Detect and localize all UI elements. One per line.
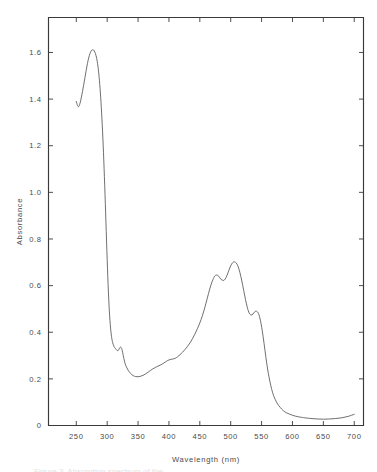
y-axis-tick-labels: 00.20.40.60.81.01.21.41.6 — [29, 48, 41, 430]
y-axis-ticks — [49, 52, 54, 425]
x-axis-ticks — [76, 421, 354, 426]
x-tick-label: 300 — [100, 432, 114, 441]
x-tick-label: 400 — [162, 432, 176, 441]
y-tick-label: 1.2 — [29, 141, 41, 150]
figure-caption-partial: Figure 3. Absorption spectrum of the — [34, 465, 334, 472]
x-tick-label: 600 — [285, 432, 299, 441]
top-axis-ticks — [76, 18, 354, 23]
y-tick-label: 0.4 — [29, 328, 41, 337]
x-tick-label: 450 — [193, 432, 207, 441]
x-tick-label: 500 — [223, 432, 237, 441]
axis-frame — [49, 18, 364, 426]
y-tick-label: 1.6 — [29, 48, 41, 57]
x-axis-title: Wavelength (nm) — [172, 455, 240, 464]
x-tick-label: 550 — [254, 432, 268, 441]
x-axis-tick-labels: 250300350400450500550600650700 — [69, 432, 361, 441]
y-tick-label: 0 — [37, 421, 42, 430]
absorbance-spectrum-figure: 250300350400450500550600650700 00.20.40.… — [0, 0, 377, 472]
y-tick-label: 1.4 — [29, 95, 41, 104]
y-tick-label: 0.2 — [29, 375, 41, 384]
y-tick-label: 0.6 — [29, 281, 41, 290]
y-axis-title: Absorbance — [15, 198, 24, 246]
x-tick-label: 250 — [69, 432, 83, 441]
plot-axes — [49, 18, 364, 426]
x-tick-label: 650 — [316, 432, 330, 441]
y-tick-label: 1.0 — [29, 188, 41, 197]
right-axis-ticks — [359, 52, 364, 425]
absorbance-curve — [76, 50, 354, 419]
y-tick-label: 0.8 — [29, 235, 41, 244]
spectrum-plot: 250300350400450500550600650700 00.20.40.… — [0, 0, 377, 472]
x-tick-label: 700 — [347, 432, 361, 441]
x-tick-label: 350 — [131, 432, 145, 441]
